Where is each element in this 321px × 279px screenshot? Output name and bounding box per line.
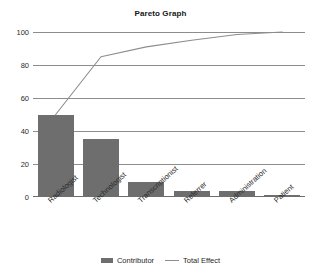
line-swatch-icon [165,260,179,261]
x-axis-tick-labels: RadiologistTechnologistTranscriptionistR… [33,198,305,250]
total-effect-line [56,32,283,115]
legend-label-contributor: Contributor [117,256,154,265]
y-axis-tick-label: 80 [3,61,29,70]
chart-legend: Contributor Total Effect [0,256,321,265]
legend-label-total-effect: Total Effect [183,256,220,265]
y-axis: 020406080100 [0,32,29,197]
legend-item-contributor: Contributor [101,256,154,265]
y-axis-tick-label: 100 [3,28,29,37]
x-axis-baseline [33,196,305,197]
y-axis-tick-label: 0 [3,193,29,202]
y-axis-tick-label: 40 [3,127,29,136]
pareto-chart: Pareto Graph 020406080100 RadiologistTec… [0,0,321,279]
bar-swatch-icon [101,258,113,263]
legend-item-total-effect: Total Effect [165,256,220,265]
y-axis-tick-label: 60 [3,94,29,103]
chart-title: Pareto Graph [0,9,321,18]
y-axis-tick-label: 20 [3,160,29,169]
